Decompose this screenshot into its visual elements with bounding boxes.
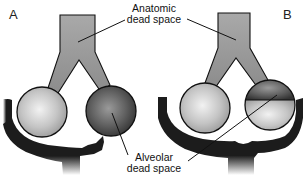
alveolar-label-line2: dead space (124, 163, 184, 174)
anatomic-dead-space-label: Anatomic dead space (124, 3, 184, 25)
alveolar-dead-space-label: Alveolar dead space (124, 152, 184, 174)
panel-a (3, 15, 136, 175)
airway-b (205, 13, 268, 88)
airway-a (48, 15, 110, 93)
panel-letter-b: B (283, 7, 292, 22)
alveolus-b-partial (244, 78, 298, 132)
dead-space-diagram: A B Anatomic dead space Alveolar dead sp… (0, 0, 303, 175)
alveolus-a-dead (86, 86, 136, 136)
anatomic-label-line2: dead space (124, 14, 184, 25)
diagram-graphic (0, 0, 303, 175)
alveolus-a-normal (17, 87, 67, 137)
alveolus-b-normal (180, 83, 230, 133)
panel-letter-a: A (9, 7, 18, 22)
